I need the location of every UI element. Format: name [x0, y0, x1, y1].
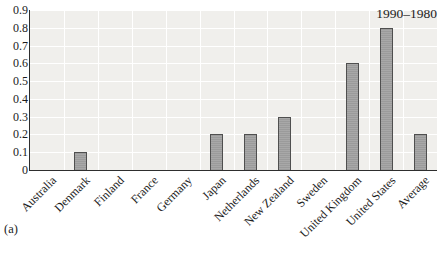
bar-netherlands: [244, 134, 257, 170]
bar-chart-figure: 0.90.80.70.60.50.40.30.20.10 AustraliaDe…: [0, 0, 442, 267]
bar-new-zealand: [278, 117, 291, 170]
x-category-label-australia: Australia: [19, 174, 59, 214]
x-category-label-denmark: Denmark: [52, 174, 93, 215]
y-axis-line: [29, 10, 31, 171]
x-category-label-japan: Japan: [200, 174, 229, 203]
x-axis-line: [29, 170, 438, 172]
bar-united-states: [380, 28, 393, 170]
y-tick-label: 0.4: [0, 93, 28, 105]
y-tick-label: 0.8: [0, 22, 28, 34]
gridline-vertical: [301, 10, 302, 170]
gridline-vertical: [98, 10, 99, 170]
plot-area: [30, 10, 437, 170]
gridline-vertical: [369, 10, 370, 170]
y-tick-label: 0.7: [0, 40, 28, 52]
gridline-vertical: [234, 10, 235, 170]
bar-japan: [210, 134, 223, 170]
gridline-vertical: [64, 10, 65, 170]
panel-label: (a): [4, 222, 18, 237]
gridline-vertical: [132, 10, 133, 170]
x-category-label-average: Average: [395, 174, 432, 211]
gridline-vertical: [267, 10, 268, 170]
y-tick-label: 0.9: [0, 4, 28, 16]
y-tick-label: 0.1: [0, 146, 28, 158]
y-tick-label: 0.2: [0, 128, 28, 140]
bar-average: [414, 134, 427, 170]
gridline-vertical: [403, 10, 404, 170]
y-tick-label: 0: [0, 164, 28, 176]
series-period-annotation: 1990–1980: [376, 6, 437, 22]
gridline-vertical: [200, 10, 201, 170]
bar-denmark: [74, 152, 87, 170]
gridline-vertical: [335, 10, 336, 170]
y-tick-label: 0.6: [0, 57, 28, 69]
x-category-label-finland: Finland: [92, 174, 127, 209]
x-category-label-germany: Germany: [154, 174, 195, 215]
y-tick-label: 0.3: [0, 111, 28, 123]
gridline-vertical: [166, 10, 167, 170]
y-tick-label: 0.5: [0, 75, 28, 87]
bar-united-kingdom: [346, 63, 359, 170]
